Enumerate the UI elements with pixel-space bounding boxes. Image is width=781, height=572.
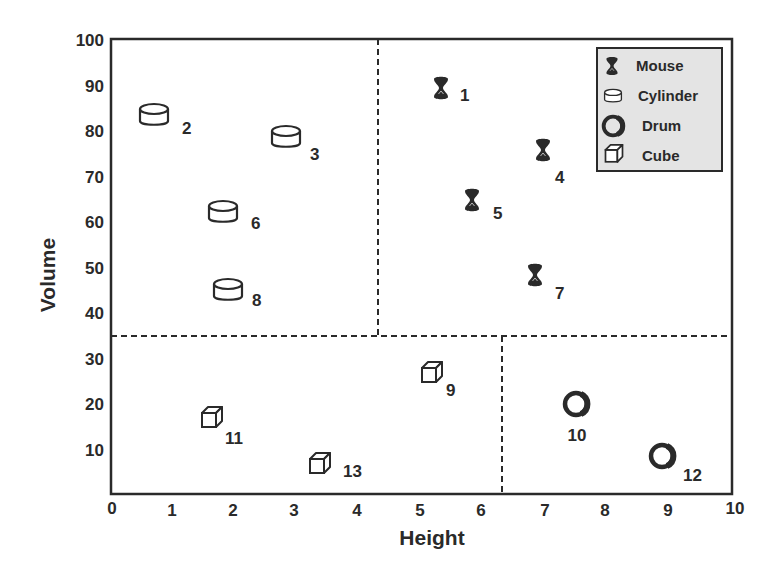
point-label: 7 — [555, 284, 564, 303]
legend-label: Cylinder — [638, 87, 698, 104]
x-tick: 3 — [289, 501, 298, 520]
x-tick: 7 — [540, 501, 549, 520]
point-label: 4 — [555, 168, 565, 187]
cylinder-marker — [140, 104, 168, 125]
y-tick: 20 — [85, 395, 104, 414]
point-label: 10 — [568, 426, 587, 445]
x-tick: 6 — [476, 501, 485, 520]
cube-icon — [606, 145, 623, 162]
point-label: 9 — [446, 381, 455, 400]
x-axis-ticks: 0 1 2 3 4 5 6 7 8 9 10 — [107, 499, 744, 520]
x-tick: 5 — [415, 501, 424, 520]
y-axis-ticks: 100 90 80 70 60 50 40 30 20 10 — [76, 31, 104, 460]
x-tick: 2 — [228, 501, 237, 520]
point-label: 3 — [310, 145, 319, 164]
cube-marker — [310, 453, 330, 473]
y-tick: 60 — [85, 213, 104, 232]
y-tick: 10 — [85, 441, 104, 460]
point-label: 2 — [182, 119, 191, 138]
y-tick: 80 — [85, 122, 104, 141]
x-tick: 0 — [107, 499, 116, 518]
y-tick: 100 — [76, 31, 104, 50]
point-label: 1 — [460, 86, 469, 105]
y-tick: 40 — [85, 304, 104, 323]
legend-label: Cube — [642, 147, 680, 164]
x-tick: 10 — [726, 499, 745, 518]
x-tick: 9 — [663, 501, 672, 520]
point-label: 8 — [252, 291, 261, 310]
y-axis-label: Volume — [36, 238, 59, 312]
point-label: 5 — [493, 204, 502, 223]
cube-marker — [202, 407, 222, 427]
y-tick: 90 — [85, 77, 104, 96]
x-tick: 8 — [600, 501, 609, 520]
legend: Mouse Cylinder Drum Cube — [597, 48, 722, 171]
cube-marker — [422, 362, 442, 382]
y-tick: 50 — [85, 259, 104, 278]
cylinder-marker — [209, 201, 237, 222]
scatter-chart: 100 90 80 70 60 50 40 30 20 10 0 1 2 3 4… — [0, 0, 781, 572]
point-label: 6 — [251, 214, 260, 233]
x-tick: 1 — [167, 501, 176, 520]
cylinder-marker — [214, 279, 242, 300]
point-label: 11 — [225, 429, 243, 448]
cylinder-icon — [605, 89, 622, 101]
legend-label: Mouse — [636, 57, 684, 74]
legend-label: Drum — [642, 117, 681, 134]
legend-item-cube: Cube — [606, 145, 680, 164]
x-axis-label: Height — [399, 526, 464, 549]
y-tick: 70 — [85, 168, 104, 187]
cylinder-marker — [272, 126, 300, 147]
y-tick: 30 — [85, 350, 104, 369]
point-label: 13 — [343, 462, 362, 481]
point-label: 12 — [683, 466, 702, 485]
x-tick: 4 — [352, 501, 362, 520]
legend-item-cylinder: Cylinder — [605, 87, 699, 104]
